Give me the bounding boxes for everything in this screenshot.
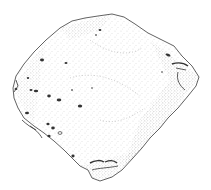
stone-body bbox=[13, 14, 199, 181]
stone-artifact-drawing bbox=[0, 0, 211, 190]
illustration-canvas: Stippled pen-and-ink illustration of a r… bbox=[0, 0, 211, 190]
